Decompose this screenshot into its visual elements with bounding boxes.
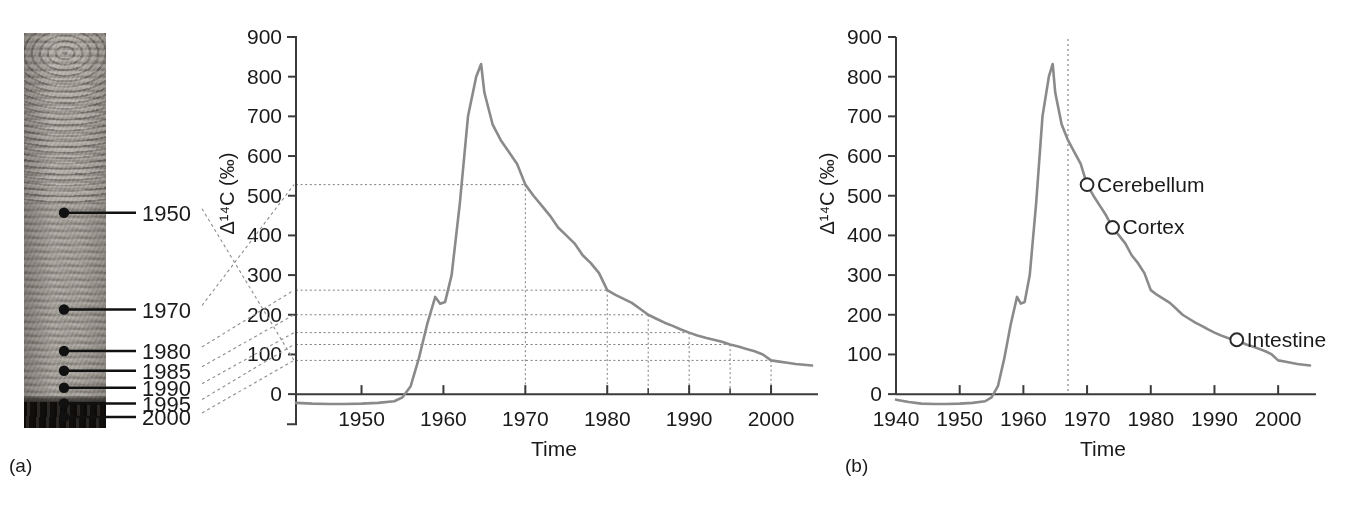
panel-b-ytick-label-100: 100 [847, 342, 882, 365]
panel-a-ytick-label-700: 700 [247, 104, 282, 127]
panel-a-y-axis-spine [287, 37, 296, 424]
panel-b-xaxis-title: Time [1080, 437, 1126, 460]
panel-b-xtick-label-1960: 1960 [1000, 407, 1047, 430]
panel-b-ytick-label-900: 900 [847, 25, 882, 48]
figure-canvas: 0100200300400500600700800900195019601970… [0, 0, 1359, 507]
panel-b-ytick-label-600: 600 [847, 144, 882, 167]
panel-b-ytick-label-300: 300 [847, 263, 882, 286]
panel-a-yaxis-title: Δ¹⁴C (‰) [216, 153, 238, 235]
panel-b-marker-intestine[interactable] [1230, 333, 1243, 346]
panel-b-bomb-curve [896, 64, 1310, 404]
panel-b-xtick-label-1970: 1970 [1064, 407, 1111, 430]
panel-b-xtick-label-1990: 1990 [1191, 407, 1238, 430]
panel-a-ytick-label-500: 500 [247, 184, 282, 207]
panel-b-xtick-label-2000: 2000 [1255, 407, 1302, 430]
panel-a-ytick-label-800: 800 [247, 65, 282, 88]
panel-b-ytick-label-0: 0 [870, 382, 882, 405]
panel-b-ytick-label-800: 800 [847, 65, 882, 88]
panel-a-xtick-label-2000: 2000 [748, 407, 795, 430]
panel-b-marker-cortex[interactable] [1106, 221, 1119, 234]
panel-b-ytick-label-500: 500 [847, 184, 882, 207]
panel-b-ytick-label-400: 400 [847, 223, 882, 246]
panel-a-xtick-label-1970: 1970 [502, 407, 549, 430]
panel-b-ytick-label-700: 700 [847, 104, 882, 127]
panel-a-ytick-label-200: 200 [247, 303, 282, 326]
panel-a-ytick-label-400: 400 [247, 223, 282, 246]
panel-b-marker-label-cortex: Cortex [1123, 215, 1185, 238]
panel-b-marker-label-intestine: Intestine [1247, 328, 1326, 351]
panel-a-ytick-label-300: 300 [247, 263, 282, 286]
panel-a-xaxis-title: Time [531, 437, 577, 460]
panel-b-xtick-label-1940: 1940 [873, 407, 920, 430]
panel-a-xtick-label-1950: 1950 [338, 407, 385, 430]
ring-year-label-2000: 2000 [142, 405, 191, 430]
panel-a-xtick-label-1960: 1960 [420, 407, 467, 430]
panel-a-ytick-label-0: 0 [270, 382, 282, 405]
panel-b-ytick-label-200: 200 [847, 303, 882, 326]
panel-a-ytick-label-900: 900 [247, 25, 282, 48]
ring-year-label-1970: 1970 [142, 298, 191, 323]
panel-b-marker-label-cerebellum: Cerebellum [1097, 173, 1204, 196]
panel-b-marker-cerebellum[interactable] [1081, 178, 1094, 191]
panel-a-bomb-curve [296, 64, 812, 404]
panel-a-xtick-label-1980: 1980 [584, 407, 631, 430]
panel-a-ytick-label-600: 600 [247, 144, 282, 167]
panel-b-yaxis-title: Δ¹⁴C (‰) [816, 153, 838, 235]
panel-b-xtick-label-1950: 1950 [936, 407, 983, 430]
ring-year-label-1950: 1950 [142, 201, 191, 226]
panel-a-xtick-label-1990: 1990 [666, 407, 713, 430]
panel-b-xtick-label-1980: 1980 [1127, 407, 1174, 430]
